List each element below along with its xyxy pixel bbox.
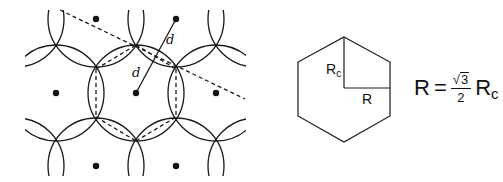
lattice-point bbox=[53, 90, 59, 96]
formula-denominator: 2 bbox=[457, 89, 464, 104]
dashed-diagonal-line bbox=[60, 10, 245, 99]
lattice-points bbox=[53, 16, 219, 169]
lattice-point bbox=[213, 90, 219, 96]
formula-equals: = bbox=[434, 75, 447, 101]
sqrt-icon: √ bbox=[453, 73, 460, 86]
distance-label-upper: d bbox=[166, 32, 174, 47]
lattice-point bbox=[173, 163, 179, 169]
neighbor-distance-line bbox=[136, 19, 176, 93]
formula-numerator: √3 bbox=[451, 72, 471, 89]
lattice-point bbox=[173, 16, 179, 22]
formula-rhs-symbol: R bbox=[475, 75, 491, 100]
radius-formula: R = √3 2 Rc bbox=[414, 68, 499, 108]
formula-rhs: Rc bbox=[475, 75, 498, 102]
formula-lhs: R bbox=[414, 75, 430, 101]
lattice-point bbox=[93, 163, 99, 169]
circumradius-label: Rc bbox=[326, 61, 341, 79]
lattice-point bbox=[93, 16, 99, 22]
formula-rhs-subscript: c bbox=[491, 85, 499, 102]
lattice-point bbox=[133, 90, 139, 96]
formula-radicand: 3 bbox=[460, 72, 469, 86]
formula-fraction: √3 2 bbox=[451, 72, 471, 104]
diagram: d d Rc R R = √3 2 Rc bbox=[0, 0, 503, 182]
inradius-label: R bbox=[362, 91, 372, 107]
distance-label-lower: d bbox=[132, 65, 140, 80]
